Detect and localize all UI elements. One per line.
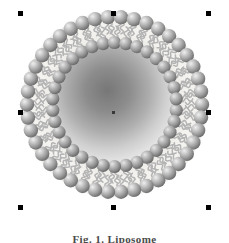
figure-caption: Fig. 1. Liposome [0,233,229,243]
outer-head-group [101,185,115,199]
handle-top-center[interactable] [111,11,116,16]
outer-head-group [88,12,102,26]
inner-head-group [108,36,121,49]
inner-head-group [97,37,110,50]
outer-head-group [191,72,205,86]
handle-middle-right[interactable] [206,110,211,115]
inner-head-group [168,81,181,94]
liposome-vesicle[interactable] [14,4,215,205]
outer-head-group [75,16,89,30]
inner-head-group [170,92,183,105]
outer-head-group [114,10,128,24]
inner-head-group [48,115,61,128]
handle-top-left[interactable] [18,11,23,16]
inner-head-group [46,92,59,105]
outer-head-group [114,185,128,199]
handle-bottom-left[interactable] [18,205,23,210]
outer-head-group [24,123,38,137]
handle-middle-left[interactable] [18,110,23,115]
outer-head-group [127,12,141,26]
handle-center[interactable] [112,111,115,114]
handle-top-right[interactable] [206,11,211,16]
figure-canvas: Fig. 1. Liposome [0,0,229,243]
outer-head-group [139,179,153,193]
outer-head-group [194,84,208,98]
inner-head-group [108,160,121,173]
outer-head-group [88,183,102,197]
inner-head-group [46,104,59,117]
inner-head-group [170,104,183,117]
outer-head-group [127,183,141,197]
inner-head-group [119,159,132,172]
handle-bottom-center[interactable] [111,205,116,210]
outer-head-group [21,84,35,98]
handle-bottom-right[interactable] [206,205,211,210]
